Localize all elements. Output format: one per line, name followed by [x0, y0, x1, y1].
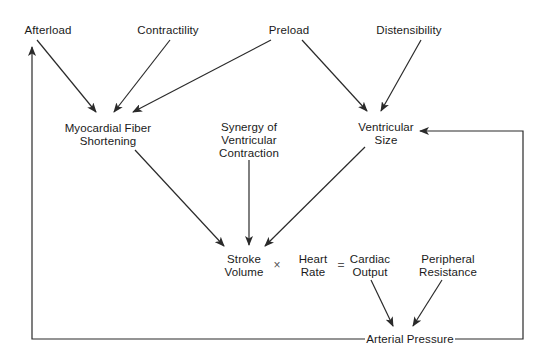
edge-distensibility-to-ventricular-size [381, 40, 421, 111]
node-label-line: Resistance [419, 266, 477, 279]
edge-cardiac-output-to-arterial-pressure [371, 280, 393, 326]
node-distensibility: Distensibility [376, 24, 441, 37]
node-label-line: Stroke [225, 253, 264, 266]
node-label-line: Rate [299, 266, 328, 279]
node-label-line: Peripheral [419, 253, 477, 266]
edge-arterial-pressure-to-afterload [32, 47, 365, 339]
node-ventricular-size: Ventricular Size [358, 121, 413, 147]
node-myocardial-fiber-shortening: Myocardial Fiber Shortening [65, 122, 152, 148]
node-label-line: Heart [299, 253, 328, 266]
node-label-line: Ventricular [358, 121, 413, 134]
node-synergy-ventricular-contraction: Synergy of Ventricular Contraction [219, 121, 279, 160]
node-label-line: Shortening [65, 135, 152, 148]
edge-preload-to-myocardial [133, 40, 271, 112]
node-contractility: Contractility [137, 24, 198, 37]
node-cardiac-output: Cardiac Output [350, 253, 390, 279]
node-arterial-pressure: Arterial Pressure [366, 333, 453, 346]
node-stroke-volume: Stroke Volume [225, 253, 264, 279]
node-preload: Preload [269, 24, 309, 37]
multiply-operator: × [273, 258, 280, 272]
node-heart-rate: Heart Rate [299, 253, 328, 279]
node-label-line: Cardiac [350, 253, 390, 266]
equals-operator: = [337, 258, 344, 272]
edge-afterload-to-myocardial [37, 40, 96, 112]
node-label-line: Ventricular [219, 134, 279, 147]
edge-preload-to-ventricular-size [302, 40, 367, 111]
node-label-line: Synergy of [219, 121, 279, 134]
node-label-line: Output [350, 266, 390, 279]
diagram-connectors [0, 0, 548, 357]
node-peripheral-resistance: Peripheral Resistance [419, 253, 477, 279]
node-label-line: Myocardial Fiber [65, 122, 152, 135]
node-label-line: Contraction [219, 147, 279, 160]
node-label-line: Size [358, 134, 413, 147]
cardiac-output-diagram: Afterload Contractility Preload Distensi… [0, 0, 548, 357]
node-label-line: Volume [225, 266, 264, 279]
edge-myocardial-to-stroke-volume [135, 150, 224, 246]
edge-peripheral-resistance-to-arterial-pressure [413, 280, 442, 326]
edge-ventricular-size-to-stroke-volume [265, 147, 365, 246]
edge-arterial-pressure-to-ventricular-size [420, 131, 523, 339]
node-afterload: Afterload [25, 24, 72, 37]
edge-contractility-to-myocardial [114, 40, 170, 112]
